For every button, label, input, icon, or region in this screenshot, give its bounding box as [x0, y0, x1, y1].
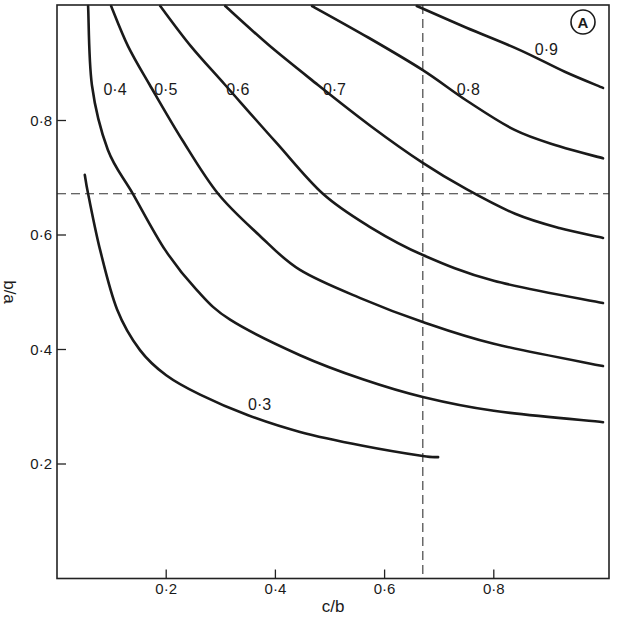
y-tick-label: 0·8: [30, 112, 52, 129]
x-tick-label: 0·4: [265, 580, 287, 597]
curve-labels: 0·30·40·50·60·70·80·9: [103, 41, 558, 413]
contour-chart: 0·30·40·50·60·70·80·9 0·20·40·60·8 0·20·…: [0, 0, 620, 630]
x-axis-label: c/b: [322, 597, 345, 616]
y-tick-label: 0·6: [30, 226, 52, 243]
contour-curve: [88, 6, 603, 422]
x-tick-label: 0·6: [374, 580, 396, 597]
curve-label: 0·7: [323, 81, 346, 98]
curve-label: 0·4: [103, 81, 126, 98]
panel-badge-label: A: [578, 14, 589, 31]
y-axis-label: b/a: [0, 280, 19, 304]
panel-badge: A: [571, 10, 595, 34]
contour-curve: [417, 6, 603, 88]
x-axis-ticks: 0·20·40·60·8: [155, 570, 504, 598]
contour-curve: [111, 6, 603, 366]
y-tick-label: 0·2: [30, 455, 52, 472]
x-tick-label: 0·8: [483, 580, 505, 597]
y-axis-ticks: 0·20·40·60·8: [30, 112, 66, 473]
contour-curve: [85, 175, 438, 457]
curve-label: 0·9: [535, 41, 558, 58]
curve-group: [85, 6, 603, 457]
curve-label: 0·8: [457, 81, 480, 98]
y-tick-label: 0·4: [30, 341, 52, 358]
x-tick-label: 0·2: [155, 580, 177, 597]
curve-label: 0·5: [154, 81, 177, 98]
curve-label: 0·3: [248, 396, 271, 413]
curve-label: 0·6: [226, 81, 249, 98]
